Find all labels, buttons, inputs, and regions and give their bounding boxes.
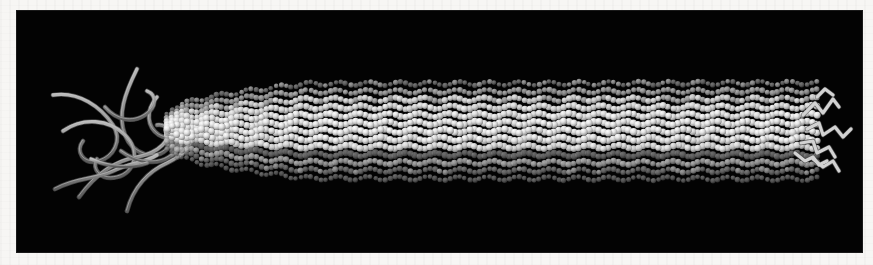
figure-root	[0, 0, 873, 265]
structure-scene	[17, 11, 862, 252]
figure-panel	[17, 11, 862, 252]
figure-panel-inner	[17, 11, 862, 252]
